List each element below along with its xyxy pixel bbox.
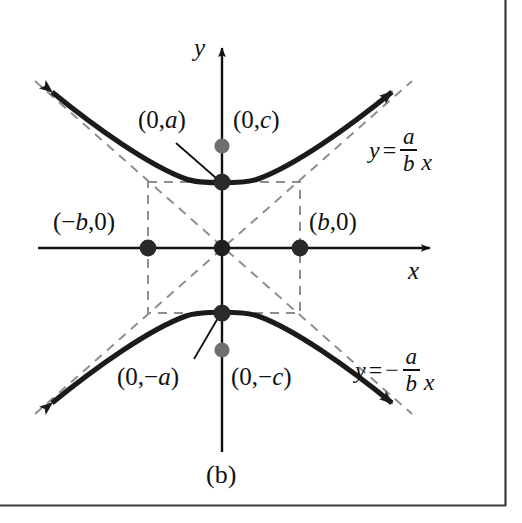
point-focus-bottom [214,342,229,357]
label-focus-bottom-x: 0 [239,363,252,390]
asymptote-equation-lower: y = − a b x [355,345,434,396]
leader-line-vertex-bottom [194,318,218,359]
label-focus-bottom-sign: − [258,363,272,390]
point-focus-top [214,138,229,153]
asymptote-lower-lhs: y [355,358,366,382]
label-vertex-top: (0,a) [138,107,186,132]
label-focus-top-close: ) [271,106,279,133]
label-corner-right-close: ) [349,208,357,235]
label-corner-left-sign: − [61,208,75,235]
label-vertex-bottom: (0,−a) [117,364,179,389]
asymptote-lower-equals: = [369,358,383,382]
asymptote-equation-upper: y = a b x [369,125,432,176]
label-corner-left: (−b,0) [53,209,115,234]
label-corner-left-var: b [75,208,88,235]
point-vertex-top [213,173,230,190]
asymptote-lower-tail: x [424,370,435,396]
asymptote-lower-fraction: a b [403,345,420,396]
label-vertex-bottom-var: a [158,363,171,390]
label-focus-bottom-close: ) [283,363,291,390]
asymptote-lower-denominator: b [404,372,420,395]
figure-panel: y x (0,a) (0,c) (−b,0) (b,0) (0,−a) (0,−… [0,0,522,523]
label-vertex-bottom-close: ) [171,363,179,390]
asymptote-upper-tail: x [421,150,432,176]
label-corner-right-var: b [317,208,330,235]
label-corner-left-y: 0 [94,208,107,235]
label-vertex-bottom-sign: − [144,363,158,390]
point-vertex-bottom [213,304,230,321]
label-focus-top-x: 0 [241,106,254,133]
point-corner-left [140,240,157,257]
point-origin [214,240,230,256]
label-focus-top-var: c [260,106,271,133]
label-vertex-top-var: a [165,106,178,133]
label-vertex-bottom-x: 0 [125,363,138,390]
asymptote-upper-lhs: y [369,138,380,162]
y-axis-label: y [194,35,205,60]
asymptote-lower-numerator: a [404,345,420,368]
label-corner-right-y: 0 [336,208,349,235]
label-corner-right: (b,0) [309,209,357,234]
label-vertex-top-x: 0 [146,106,159,133]
x-axis-label: x [408,258,419,283]
label-focus-top: (0,c) [233,107,280,132]
point-corner-right [292,240,309,257]
figure-caption: (b) [206,462,236,488]
asymptote-upper-fraction: a b [400,125,417,176]
asymptote-upper-equals: = [383,138,397,162]
hyperbola-graph [0,0,522,523]
asymptote-upper-denominator: b [401,152,417,175]
label-corner-left-close: ) [107,208,115,235]
leader-line-vertex-top [176,143,216,178]
panel-border [0,0,506,506]
asymptote-lower-sign: − [385,358,399,382]
label-focus-bottom-var: c [272,363,283,390]
label-vertex-top-close: ) [178,106,186,133]
label-focus-bottom: (0,−c) [231,364,292,389]
asymptote-upper-numerator: a [401,125,417,148]
